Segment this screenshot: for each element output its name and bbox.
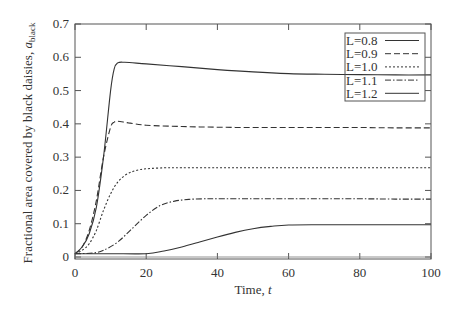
y-tick-label: 0.1 (53, 216, 69, 231)
x-axis-label: Time, t (234, 282, 271, 297)
x-tick-label: 40 (211, 265, 224, 280)
y-tick-label: 0.4 (53, 116, 70, 131)
y-tick-label: 0.2 (53, 182, 69, 197)
x-tick-label: 20 (140, 265, 153, 280)
x-tick-label: 0 (72, 265, 79, 280)
y-tick-label: 0.6 (53, 49, 70, 64)
series-line-l-1-1 (75, 199, 431, 254)
x-tick-label: 100 (421, 265, 441, 280)
y-tick-label: 0.5 (53, 83, 69, 98)
series-line-l-1-0 (75, 168, 431, 254)
x-tick-label: 60 (282, 265, 295, 280)
series-line-l-1-2 (75, 225, 431, 254)
series-line-l-0-9 (75, 121, 431, 254)
y-tick-label: 0 (63, 249, 70, 264)
y-tick-label: 0.3 (53, 149, 69, 164)
legend: L=0.8L=0.9L=1.0L=1.1L=1.2 (345, 33, 425, 101)
chart: 00.10.20.30.40.50.60.7 020406080100 L=0.… (0, 0, 462, 310)
y-tick-label: 0.7 (53, 16, 70, 31)
y-axis-label: Fractional area covered by black daisies… (20, 22, 37, 263)
legend-label: L=1.2 (346, 86, 378, 101)
x-tick-label: 80 (353, 265, 366, 280)
